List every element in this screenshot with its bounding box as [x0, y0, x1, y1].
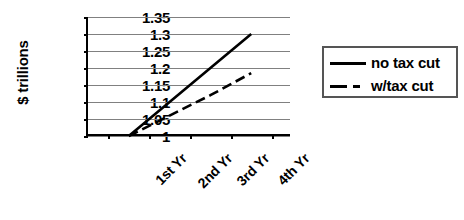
chart-canvas: $ trillions 1.351.31.251.21.151.11.051 1… [0, 0, 464, 220]
gridline [88, 136, 290, 137]
y-axis-tick-mark [84, 85, 88, 87]
legend-label: w/tax cut [371, 77, 433, 94]
y-axis-tick-mark [84, 136, 88, 138]
x-axis-tick-label: 1st Yr [152, 150, 190, 188]
plot-area [86, 17, 290, 136]
y-axis-tick-mark [84, 51, 88, 53]
y-axis-tick-mark [84, 68, 88, 70]
x-axis-tick-label: 4th Yr [274, 150, 312, 188]
dashed-line-icon [330, 80, 366, 92]
y-axis-tick-mark [84, 17, 88, 19]
series-line [129, 73, 251, 136]
y-axis-tick-mark [84, 119, 88, 121]
x-axis-tick-label: 2nd Yr [194, 150, 235, 191]
y-axis-tick-mark [84, 34, 88, 36]
legend-entry[interactable]: no tax cut [324, 51, 456, 74]
legend-label: no tax cut [371, 54, 440, 71]
series-line [129, 34, 251, 136]
series-lines [88, 17, 292, 136]
solid-line-icon [330, 57, 366, 69]
y-axis-tick-mark [84, 102, 88, 104]
y-axis-title: $ trillions [14, 13, 31, 133]
x-axis-tick-label: 3rd Yr [234, 150, 273, 189]
legend-entry[interactable]: w/tax cut [324, 74, 456, 97]
chart-legend[interactable]: no tax cutw/tax cut [322, 46, 458, 98]
